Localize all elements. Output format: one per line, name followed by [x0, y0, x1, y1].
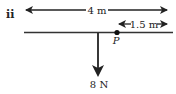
point-p-label: P: [112, 35, 120, 46]
offset-label: 1.5 m: [130, 19, 159, 30]
force-label: 8 N: [90, 79, 109, 90]
part-label: ii: [6, 8, 14, 21]
total-length-dimension: 4 m: [26, 5, 167, 16]
beam-diagram: ii 4 m 1.5 m P 8 N: [0, 0, 176, 94]
total-length-label: 4 m: [87, 5, 107, 16]
offset-dimension: 1.5 m: [119, 19, 167, 30]
